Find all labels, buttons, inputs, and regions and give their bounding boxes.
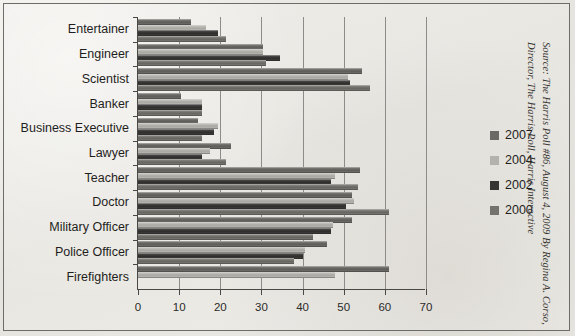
source-note: Source: The Harris Poll #86, August 4, 2… — [484, 42, 554, 336]
x-tick-label-10: 10 — [173, 301, 186, 313]
x-tick-label-60: 60 — [378, 301, 391, 313]
category-label-banker: Banker — [89, 97, 129, 111]
gridline-70 — [426, 17, 427, 289]
x-tick-label-0: 0 — [135, 301, 141, 313]
category-tick — [133, 215, 138, 216]
x-tick-label-70: 70 — [420, 301, 433, 313]
category-label-military-officer: Military Officer — [49, 220, 129, 234]
x-tick-label-30: 30 — [255, 301, 268, 313]
category-label-entertainer: Entertainer — [68, 22, 129, 36]
category-tick — [133, 42, 138, 43]
category-tick — [133, 66, 138, 67]
category-tick — [133, 165, 138, 166]
x-tick-70 — [426, 289, 427, 295]
category-tick — [133, 190, 138, 191]
bar-group: Business Executive — [138, 116, 425, 141]
bar-firefighters-2004 — [138, 272, 335, 278]
x-tick-label-50: 50 — [337, 301, 350, 313]
bar-group: Police Officer — [138, 240, 425, 265]
category-tick — [133, 264, 138, 265]
category-tick — [133, 116, 138, 117]
bar-group: Banker — [138, 91, 425, 116]
category-label-police-officer: Police Officer — [55, 245, 129, 259]
bar-group: Scientist — [138, 66, 425, 91]
category-label-lawyer: Lawyer — [89, 146, 129, 160]
x-tick-label-40: 40 — [296, 301, 309, 313]
x-axis-line — [137, 289, 425, 290]
category-label-engineer: Engineer — [79, 47, 129, 61]
bar-group: Engineer — [138, 42, 425, 67]
category-label-business-executive: Business Executive — [21, 121, 129, 135]
bar-group: Lawyer — [138, 141, 425, 166]
category-tick — [133, 141, 138, 142]
bar-group: Doctor — [138, 190, 425, 215]
category-label-scientist: Scientist — [82, 72, 129, 86]
bar-group: Teacher — [138, 165, 425, 190]
bar-group: Firefighters — [138, 264, 425, 289]
bar-group: Military Officer — [138, 215, 425, 240]
category-tick — [133, 240, 138, 241]
category-label-doctor: Doctor — [92, 195, 129, 209]
plot-area: 010203040506070EntertainerEngineerScient… — [137, 17, 425, 289]
bar-group: Entertainer — [138, 17, 425, 42]
category-tick — [133, 17, 138, 18]
category-tick — [133, 91, 138, 92]
category-label-firefighters: Firefighters — [66, 270, 129, 284]
x-tick-label-20: 20 — [214, 301, 227, 313]
category-label-teacher: Teacher — [85, 171, 129, 185]
